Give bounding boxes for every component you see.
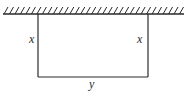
- hatch-mark: [141, 7, 145, 14]
- hatch-mark: [15, 7, 19, 14]
- hatch-mark: [97, 7, 101, 14]
- hatch-mark: [147, 7, 151, 14]
- left-side-label: x: [28, 32, 35, 46]
- bottom-side-label: y: [88, 77, 95, 91]
- hatch-mark: [70, 7, 74, 14]
- hatch-mark: [169, 7, 173, 14]
- hatch-mark: [180, 7, 184, 14]
- hatch-mark: [114, 7, 118, 14]
- hatch-mark: [174, 7, 178, 14]
- enclosure-fence: [38, 14, 148, 77]
- hatch-mark: [152, 7, 156, 14]
- hatch-mark: [130, 7, 134, 14]
- hatch-mark: [53, 7, 57, 14]
- hatch-mark: [59, 7, 63, 14]
- hatch-mark: [86, 7, 90, 14]
- hatch-mark: [42, 7, 46, 14]
- hatch-mark: [9, 7, 13, 14]
- hatch-mark: [37, 7, 41, 14]
- right-side-label: x: [136, 32, 143, 46]
- fence-diagram: x x y: [0, 0, 188, 106]
- hatch-mark: [48, 7, 52, 14]
- hatch-mark: [64, 7, 68, 14]
- hatch-mark: [31, 7, 35, 14]
- hatch-mark: [158, 7, 162, 14]
- hatch-mark: [163, 7, 167, 14]
- wall-hatching: [4, 7, 184, 14]
- hatch-mark: [108, 7, 112, 14]
- hatch-mark: [92, 7, 96, 14]
- hatch-mark: [81, 7, 85, 14]
- hatch-mark: [4, 7, 8, 14]
- hatch-mark: [75, 7, 79, 14]
- hatch-mark: [125, 7, 129, 14]
- hatch-mark: [136, 7, 140, 14]
- hatch-mark: [103, 7, 107, 14]
- wall: [3, 7, 184, 14]
- hatch-mark: [20, 7, 24, 14]
- hatch-mark: [26, 7, 30, 14]
- hatch-mark: [119, 7, 123, 14]
